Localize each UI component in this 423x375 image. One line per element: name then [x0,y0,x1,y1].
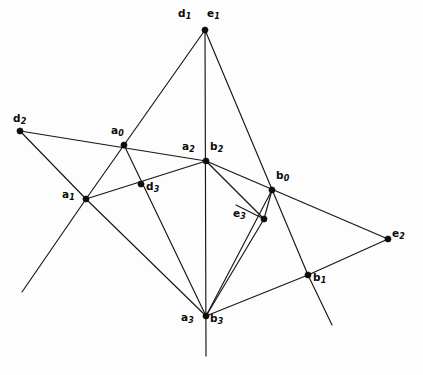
geometry-diagram: d1e1d2a0a2b2b0a1d3e3e2b1a3b3 [0,0,423,375]
label-a0-primary: a0 [111,125,124,138]
vertex-d3 [138,181,144,187]
edge-d2-to-lowerleft [20,131,86,199]
label-b1-primary: b1 [313,272,326,285]
edge-e3-to-b0 [264,190,272,219]
edge-e2-to-b1 [308,239,388,275]
edge-a1-to-ab3 [86,199,206,316]
label-a1-primary: a1 [62,189,75,202]
vertex-ab3 [203,313,209,319]
edge-a1-extend-down [22,199,86,292]
vertices-group [17,27,391,319]
edge-apex-to-a1 [86,30,205,199]
edge-ab2-to-e2 [206,161,388,239]
label-e2-primary: e2 [392,228,405,241]
edge-b1-to-ab3 [206,275,308,316]
label-ab3-primary: a3 [181,312,194,325]
label-b0-primary: b0 [276,170,289,183]
vertex-a1 [83,196,89,202]
edges-group [20,30,388,356]
label-e3-primary: e3 [233,208,246,221]
vertex-b1 [305,272,311,278]
vertex-e2 [385,236,391,242]
vertex-b0 [269,187,275,193]
vertex-e3 [261,216,267,222]
vertex-de1 [202,27,208,33]
vertex-d2 [17,128,23,134]
label-de1-secondary: e1 [207,8,220,21]
vertex-a0 [121,142,127,148]
vertex-ab2 [203,158,209,164]
label-d2-primary: d2 [13,113,26,126]
label-de1-primary: d1 [178,8,191,21]
label-d3-primary: d3 [146,181,159,194]
label-ab3-secondary: b3 [210,313,223,326]
label-ab2-secondary: b2 [210,141,223,154]
edge-e3-to-ab3 [206,219,264,316]
edge-a0-to-ab3 [124,145,206,316]
edge-apex-vertical [205,30,206,356]
label-ab2-primary: a2 [182,141,195,154]
